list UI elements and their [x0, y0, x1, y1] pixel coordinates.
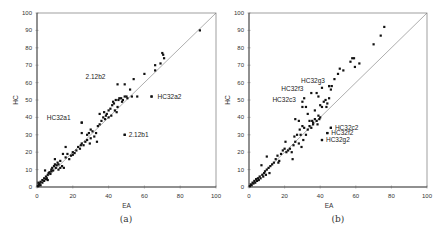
data-point	[296, 134, 298, 136]
data-point	[162, 54, 164, 56]
y-tick-label: 100	[22, 10, 33, 16]
data-point	[289, 148, 291, 150]
y-tick-label: 10	[25, 167, 32, 173]
y-tick-label: 20	[237, 149, 244, 155]
data-point	[305, 134, 307, 136]
x-tick-label: 100	[211, 193, 222, 199]
y-tick-label: 50	[237, 97, 244, 103]
data-point	[82, 144, 84, 146]
data-point	[349, 61, 351, 63]
data-point	[299, 128, 301, 130]
y-tick-label: 20	[25, 149, 32, 155]
data-point	[99, 113, 101, 115]
data-point	[331, 85, 333, 87]
y-tick-label: 80	[237, 45, 244, 51]
data-point	[307, 113, 309, 115]
y-axis-label: HC	[12, 95, 19, 105]
x-tick-label: 0	[35, 193, 39, 199]
data-point	[65, 146, 67, 148]
data-point	[317, 95, 319, 97]
data-point	[199, 29, 201, 31]
data-point	[305, 106, 307, 108]
data-point	[333, 78, 335, 80]
data-point	[266, 155, 268, 157]
point-annotation: 2.12b2	[86, 73, 106, 80]
scatter-figure: 0102030405060708090100020406080100EAHC2.…	[0, 0, 437, 235]
data-point	[37, 182, 39, 184]
data-point	[310, 127, 312, 129]
data-point	[316, 92, 318, 94]
data-point	[342, 69, 344, 71]
x-tick-label: 40	[317, 193, 324, 199]
data-point	[75, 149, 77, 151]
data-point	[44, 169, 46, 171]
x-tick-label: 80	[388, 193, 395, 199]
data-point	[284, 148, 286, 150]
point-annotation: HC32c3	[272, 96, 296, 103]
data-point	[316, 120, 318, 122]
data-point	[292, 158, 294, 160]
data-point	[129, 88, 131, 90]
scatter-plot-b: 0102030405060708090100020406080100EAHCHC…	[224, 10, 433, 209]
y-tick-label: 40	[237, 114, 244, 120]
data-point	[307, 128, 309, 130]
data-point	[280, 153, 282, 155]
data-point	[303, 97, 305, 99]
y-tick-label: 60	[25, 80, 32, 86]
x-tick-label: 40	[105, 193, 112, 199]
x-tick-label: 100	[422, 193, 433, 199]
data-point	[96, 141, 98, 143]
data-point	[159, 62, 161, 64]
data-point	[113, 102, 115, 104]
data-point	[116, 106, 118, 108]
data-point	[47, 179, 49, 181]
y-tick-label: 80	[25, 45, 32, 51]
data-point	[55, 167, 57, 169]
x-axis-label: EA	[122, 202, 131, 209]
data-point	[294, 118, 296, 120]
data-point	[95, 132, 97, 134]
data-point	[143, 73, 145, 75]
data-point	[291, 151, 293, 153]
data-point	[292, 144, 294, 146]
data-point	[260, 164, 262, 166]
data-point	[302, 139, 304, 141]
point-annotation: HC32g2	[326, 136, 350, 144]
data-point	[301, 106, 303, 108]
data-point	[103, 111, 105, 113]
data-point	[314, 109, 316, 111]
x-axis-label: EA	[325, 202, 334, 209]
y-tick-label: 60	[237, 80, 244, 86]
data-point	[273, 162, 275, 164]
point-annotation: HC32f3	[281, 85, 303, 92]
data-point	[136, 95, 138, 97]
data-point	[300, 134, 302, 136]
data-point	[358, 62, 360, 64]
data-point	[319, 116, 321, 118]
data-point	[89, 142, 91, 144]
y-axis-label: HC	[224, 95, 231, 105]
data-point	[294, 141, 296, 143]
data-point	[326, 102, 328, 104]
point-annotation: 2.12b1	[129, 131, 149, 138]
data-point	[81, 132, 83, 134]
data-point	[163, 57, 165, 59]
y-tick-label: 30	[25, 132, 32, 138]
data-point	[328, 97, 330, 99]
data-point	[131, 95, 133, 97]
data-point	[298, 142, 300, 144]
data-point	[110, 115, 112, 117]
data-point	[353, 57, 355, 59]
data-point	[265, 174, 267, 176]
data-point	[90, 137, 92, 139]
y-tick-label: 0	[29, 184, 33, 190]
point-annotation: HC32a1	[47, 114, 71, 121]
data-point	[316, 123, 318, 125]
data-point	[321, 87, 323, 89]
data-point	[293, 135, 295, 137]
y-tick-label: 0	[241, 184, 245, 190]
x-tick-label: 60	[141, 193, 148, 199]
data-point	[86, 139, 88, 141]
data-point	[259, 177, 261, 179]
data-point	[262, 175, 264, 177]
